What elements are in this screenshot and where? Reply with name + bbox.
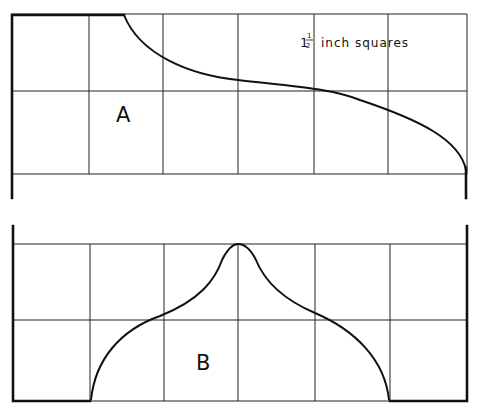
pattern-a-label: A [116,103,131,127]
pattern-b: B [13,226,467,401]
pattern-b-outline [13,226,467,401]
pattern-b-label: B [196,351,210,375]
scale-text: inch squares [321,36,409,50]
scale-fraction-denominator: 2 [306,42,310,50]
pattern-diagram: A 1 1 2 inch squares B [0,0,479,412]
pattern-a: A 1 1 2 inch squares [11,14,467,198]
pattern-b-grid [14,244,467,401]
scale-note: 1 1 2 inch squares [300,32,409,50]
scale-fraction-numerator: 1 [307,32,311,40]
